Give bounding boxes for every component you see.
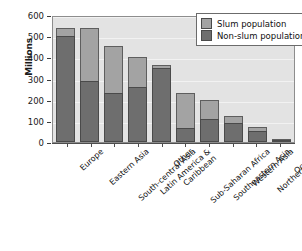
- bar-segment-nonslum[interactable]: [176, 128, 195, 142]
- y-tick-mark: [47, 122, 51, 123]
- y-tick-label: 200: [28, 96, 44, 106]
- bar-column[interactable]: [104, 17, 123, 142]
- bar-column[interactable]: [56, 17, 75, 142]
- y-tick-label: 500: [28, 32, 44, 42]
- bar-segment-slum[interactable]: [104, 46, 123, 93]
- legend-item[interactable]: Slum population: [201, 18, 302, 29]
- y-tick-label: 600: [28, 11, 44, 21]
- x-tick-label-line: Eastern Asia: [107, 147, 150, 187]
- bar-segment-nonslum[interactable]: [248, 131, 267, 142]
- bar-segment-nonslum[interactable]: [80, 81, 99, 142]
- y-axis-ticks: 0100200300400500600: [0, 0, 52, 251]
- bar-segment-slum[interactable]: [128, 57, 147, 86]
- x-tick-label-line: Europe: [78, 147, 105, 173]
- bar-segment-nonslum[interactable]: [104, 93, 123, 142]
- y-tick-label: 0: [39, 138, 44, 148]
- bar-column[interactable]: [80, 17, 99, 142]
- bar-segment-slum[interactable]: [56, 28, 75, 36]
- bar-segment-nonslum[interactable]: [224, 123, 243, 142]
- bar-column[interactable]: [176, 17, 195, 142]
- y-tick-label: 300: [28, 75, 44, 85]
- bar-column[interactable]: [152, 17, 171, 142]
- y-tick-mark: [47, 37, 51, 38]
- y-tick-mark: [47, 16, 51, 17]
- legend-label: Slum population: [217, 19, 286, 29]
- x-axis-labels: EuropeEastern AsiaSouth-central AsiaLati…: [52, 147, 295, 247]
- legend-swatch: [201, 30, 212, 41]
- bar-segment-slum[interactable]: [224, 116, 243, 123]
- chart-legend: Slum populationNon-slum population: [196, 13, 302, 46]
- bar-segment-nonslum[interactable]: [200, 119, 219, 142]
- legend-label: Non-slum population: [217, 31, 302, 41]
- y-tick-mark: [47, 80, 51, 81]
- bar-segment-nonslum[interactable]: [128, 87, 147, 142]
- x-tick-label: Europe: [78, 147, 105, 173]
- bar-segment-slum[interactable]: [80, 28, 99, 81]
- y-tick-label: 100: [28, 117, 44, 127]
- y-tick-mark: [47, 58, 51, 59]
- legend-item[interactable]: Non-slum population: [201, 30, 302, 41]
- stacked-bar-chart: Millions 0100200300400500600 EuropeEaste…: [0, 0, 302, 251]
- x-tick-label-line: Oceania: [293, 147, 302, 176]
- bar-column[interactable]: [128, 17, 147, 142]
- bar-segment-nonslum[interactable]: [56, 36, 75, 142]
- y-tick-label: 400: [28, 53, 44, 63]
- x-tick-label: Eastern Asia: [107, 147, 150, 187]
- y-tick-mark: [47, 101, 51, 102]
- legend-swatch: [201, 18, 212, 29]
- bar-segment-nonslum[interactable]: [152, 68, 171, 142]
- x-tick-label: Oceania: [293, 147, 302, 176]
- bar-segment-slum[interactable]: [200, 100, 219, 119]
- y-tick-mark: [47, 143, 51, 144]
- bar-segment-slum[interactable]: [176, 93, 195, 128]
- bar-segment-nonslum[interactable]: [272, 140, 291, 142]
